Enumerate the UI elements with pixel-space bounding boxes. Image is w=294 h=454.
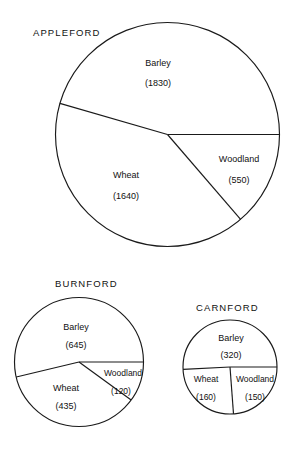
carnford-woodland-label: Woodland [236, 375, 274, 384]
appleford-barley-label: Barley [145, 59, 171, 68]
burnford-barley-value: (645) [65, 341, 86, 350]
carnford-wheat-value: (160) [196, 393, 216, 402]
appleford-woodland-value: (550) [228, 176, 249, 185]
burnford-wheat-value: (435) [55, 402, 76, 411]
carnford-barley-value: (320) [220, 351, 241, 360]
appleford-wheat-value: (1640) [113, 192, 139, 201]
appleford-wheat-label: Wheat [113, 171, 139, 180]
carnford-barley-label: Barley [218, 334, 244, 343]
appleford-barley-value: (1830) [145, 79, 171, 88]
burnford-woodland-value: (120) [111, 387, 131, 396]
burnford-chart-title: BURNFORD [55, 278, 118, 289]
carnford-chart-title: CARNFORD [196, 302, 259, 313]
appleford-pie [56, 23, 280, 247]
burnford-woodland-label: Woodland [104, 369, 142, 378]
appleford-chart-title: APPLEFORD [33, 27, 100, 38]
burnford-wheat-label: Wheat [53, 384, 79, 393]
appleford-woodland-label: Woodland [219, 155, 259, 164]
pie-chart-canvas [0, 0, 294, 454]
burnford-barley-label: Barley [63, 323, 89, 332]
carnford-wheat-label: Wheat [194, 375, 219, 384]
pie-chart-figure: APPLEFORD Barley (1830) Wheat (1640) Woo… [0, 0, 294, 454]
carnford-woodland-value: (150) [245, 393, 265, 402]
burnford-pie [15, 298, 144, 427]
